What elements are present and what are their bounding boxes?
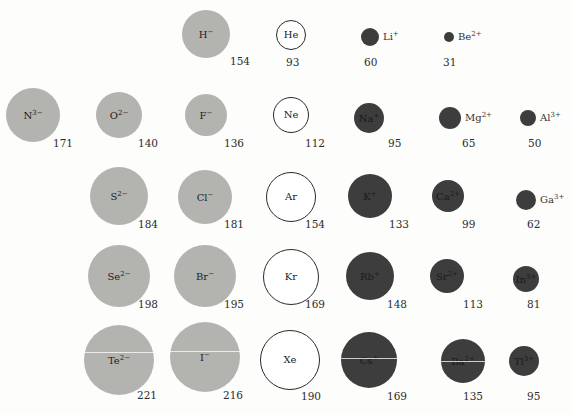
- ion-charge: 2+: [482, 111, 492, 119]
- ion-charge: +: [374, 270, 380, 278]
- ion-symbol-tl-3plus: Tl3+: [514, 356, 534, 367]
- element-symbol: Xe: [283, 354, 296, 365]
- ion-circle-cl-minus: Cl−: [178, 170, 232, 224]
- ion-symbol-xe: Xe: [283, 355, 296, 365]
- ion-charge: 2−: [118, 109, 128, 117]
- ion-circle-i-minus: I−: [170, 322, 240, 392]
- ionic-radii-diagram: H−154He93Li+60Be2+31N3−171O2−140F−136Ne1…: [0, 0, 571, 414]
- ion-charge: 3+: [554, 193, 564, 201]
- radius-value-ar: 154: [305, 219, 325, 230]
- ion-symbol-al-3plus: Al3+: [540, 112, 561, 123]
- element-symbol: Cl: [197, 192, 208, 203]
- radius-value-ca-2plus: 99: [462, 219, 475, 230]
- ion-symbol-i-minus: I−: [200, 352, 210, 363]
- element-symbol: Li: [383, 31, 393, 42]
- ion-symbol-ga-3plus: Ga3+: [540, 194, 564, 205]
- ion-charge: 3−: [32, 109, 42, 117]
- element-symbol: N: [23, 110, 32, 121]
- ion-symbol-rb-plus: Rb+: [360, 271, 380, 282]
- element-symbol: Br: [196, 271, 208, 282]
- ion-symbol-he: He: [284, 30, 299, 40]
- ion-charge: 3+: [550, 111, 560, 119]
- ion-circle-in-3plus: In3+: [513, 266, 539, 292]
- ion-charge: −: [207, 191, 213, 199]
- radius-value-n-3minus: 171: [53, 138, 73, 149]
- ion-circle-li-plus: [361, 28, 379, 46]
- radius-value-xe: 190: [301, 391, 321, 402]
- radius-value-i-minus: 216: [223, 390, 243, 401]
- ion-symbol-br-minus: Br−: [196, 271, 214, 282]
- ion-circle-ca-2plus: Ca2+: [432, 180, 464, 212]
- element-symbol: Ca: [436, 191, 450, 202]
- ion-circle-ne: Ne: [273, 97, 309, 133]
- scan-artifact-line: [170, 351, 240, 352]
- ion-circle-h-minus: H−: [182, 10, 230, 58]
- ion-circle-tl-3plus: Tl3+: [509, 346, 539, 376]
- ion-symbol-h-minus: H−: [199, 29, 214, 40]
- radius-value-s-2minus: 184: [138, 219, 158, 230]
- ion-charge: −: [208, 270, 214, 278]
- radius-value-te-2minus: 221: [137, 390, 157, 401]
- ion-charge: −: [207, 109, 213, 117]
- ion-symbol-n-3minus: N3−: [23, 110, 42, 121]
- ion-symbol-in-3plus: In3+: [516, 274, 537, 285]
- ion-symbol-s-2minus: S2−: [110, 191, 127, 202]
- ion-circle-be-2plus: [444, 32, 454, 42]
- scan-artifact-line: [84, 352, 154, 353]
- element-symbol: F: [200, 110, 207, 121]
- radius-value-k-plus: 133: [389, 219, 409, 230]
- ion-circle-te-2minus: Te2−: [84, 325, 154, 395]
- element-symbol: In: [516, 274, 526, 285]
- radius-value-mg-2plus: 65: [462, 138, 475, 149]
- element-symbol: Tl: [514, 356, 524, 367]
- scan-artifact-line: [341, 358, 397, 359]
- ion-circle-cs-plus: Cs+: [341, 332, 397, 388]
- ion-circle-rb-plus: Rb+: [346, 252, 394, 300]
- radius-value-rb-plus: 148: [387, 299, 407, 310]
- ion-symbol-k-plus: K+: [363, 191, 376, 202]
- radius-value-ga-3plus: 62: [527, 219, 540, 230]
- element-symbol: Ga: [540, 194, 554, 205]
- element-symbol: Al: [540, 112, 550, 123]
- ion-circle-kr: Kr: [263, 249, 319, 305]
- ion-charge: +: [373, 112, 379, 120]
- ion-symbol-na-plus: Na+: [359, 113, 380, 124]
- ion-charge: 2+: [450, 190, 460, 198]
- ion-circle-n-3minus: N3−: [6, 88, 60, 142]
- ion-charge: 2−: [117, 190, 127, 198]
- radius-value-f-minus: 136: [224, 138, 244, 149]
- radius-value-sr-2plus: 113: [463, 299, 483, 310]
- radius-value-he: 93: [286, 57, 299, 68]
- radius-value-cs-plus: 169: [387, 391, 407, 402]
- radius-value-in-3plus: 81: [527, 299, 540, 310]
- ion-symbol-be-2plus: Be2+: [458, 31, 482, 42]
- ion-circle-he: He: [276, 20, 306, 50]
- radius-value-h-minus: 154: [230, 56, 250, 67]
- ion-symbol-sr-2plus: Sr2+: [436, 271, 458, 282]
- radius-value-ba-2plus: 135: [463, 391, 483, 402]
- ion-symbol-ca-2plus: Ca2+: [436, 191, 460, 202]
- radius-value-na-plus: 95: [388, 138, 401, 149]
- ion-symbol-f-minus: F−: [200, 110, 213, 121]
- ion-symbol-cs-plus: Cs+: [360, 355, 379, 366]
- element-symbol: Mg: [465, 112, 482, 123]
- element-symbol: Rb: [360, 271, 374, 282]
- ion-symbol-ar: Ar: [285, 192, 297, 202]
- ion-circle-ga-3plus: [516, 190, 536, 210]
- radius-value-o-2minus: 140: [138, 138, 158, 149]
- ion-charge: 2−: [120, 354, 130, 362]
- ion-charge: −: [207, 28, 213, 36]
- element-symbol: Na: [359, 113, 374, 124]
- ion-charge: +: [393, 30, 399, 38]
- element-symbol: O: [110, 110, 118, 121]
- ion-circle-xe: Xe: [260, 330, 320, 390]
- ion-symbol-ne: Ne: [284, 110, 299, 120]
- ion-charge: 3+: [524, 355, 534, 363]
- ion-symbol-o-2minus: O2−: [110, 110, 129, 121]
- element-symbol: Ar: [285, 191, 297, 202]
- radius-value-ne: 112: [305, 138, 325, 149]
- radius-value-kr: 169: [305, 299, 325, 310]
- radius-value-li-plus: 60: [364, 57, 377, 68]
- ion-circle-na-plus: Na+: [354, 103, 384, 133]
- scan-artifact-line: [441, 361, 485, 362]
